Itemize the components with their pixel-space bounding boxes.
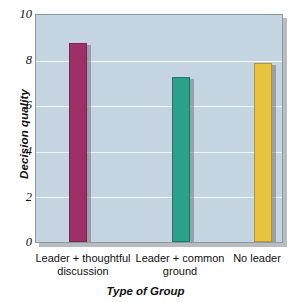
y-tick-label: 0: [2, 236, 32, 249]
bar-leader-thoughtful-discussion[interactable]: [69, 43, 87, 242]
bar-shadow: [190, 79, 194, 242]
x-tick-line-2: ground: [125, 265, 235, 278]
bar-no-leader[interactable]: [254, 63, 272, 242]
x-tick-label-no-leader: No leader: [226, 252, 288, 265]
y-axis-title: Decision quality: [18, 64, 30, 204]
bar-shadow: [272, 65, 276, 242]
x-tick-line-1: Leader + common: [125, 252, 235, 265]
x-tick-label-leader-common-ground: Leader + common ground: [125, 252, 235, 277]
bar-leader-common-ground[interactable]: [172, 77, 190, 242]
x-axis-title: Type of Group: [0, 285, 291, 297]
y-tick-label: 10: [2, 8, 32, 21]
bar-chart-figure: 10 8 6 4 2 0 Decision quality Leader + t…: [0, 0, 291, 302]
bar-shadow: [87, 45, 91, 242]
plot-area: [35, 14, 283, 243]
x-tick-line-1: No leader: [226, 252, 288, 265]
